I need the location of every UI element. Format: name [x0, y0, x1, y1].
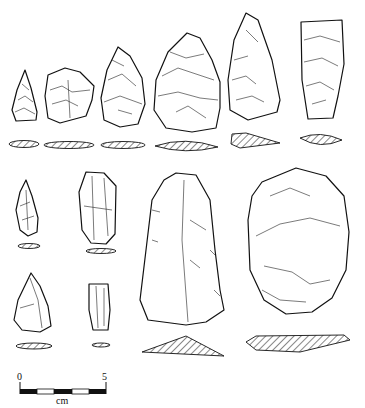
artifact-10-small-blade: [89, 284, 110, 330]
artifact-1-small-point: [12, 70, 37, 121]
artifact-6-rectangular-blade: [301, 20, 344, 119]
section-5: [231, 133, 280, 148]
artifact-5-pointed-blade: [228, 13, 280, 120]
artifact-2-scraper: [45, 68, 94, 123]
section-7: [18, 244, 40, 249]
artifact-3-ovate-biface: [101, 47, 145, 127]
section-12: [246, 335, 350, 352]
section-10: [92, 343, 110, 347]
artifact-12-ovate-core-tool: [248, 168, 349, 314]
section-8: [86, 249, 116, 254]
section-2: [44, 142, 94, 149]
artifact-9-triangular-flake: [14, 273, 51, 332]
artifact-plate: [0, 0, 365, 408]
artifact-8-blade-fragment: [79, 172, 116, 244]
artifact-7-small-flake: [16, 180, 38, 236]
scale-bar: [20, 382, 106, 394]
artifact-4-large-biface: [154, 33, 220, 132]
section-4: [155, 141, 218, 151]
scale-end-label: 5: [102, 371, 107, 382]
section-1: [9, 141, 39, 148]
scale-unit-label: cm: [56, 395, 68, 406]
section-3: [101, 142, 145, 149]
scale-start-label: 0: [17, 371, 22, 382]
section-6: [300, 134, 342, 144]
section-9: [16, 343, 52, 349]
artifact-11-large-elongated-flake: [140, 173, 224, 325]
section-11: [142, 336, 224, 356]
